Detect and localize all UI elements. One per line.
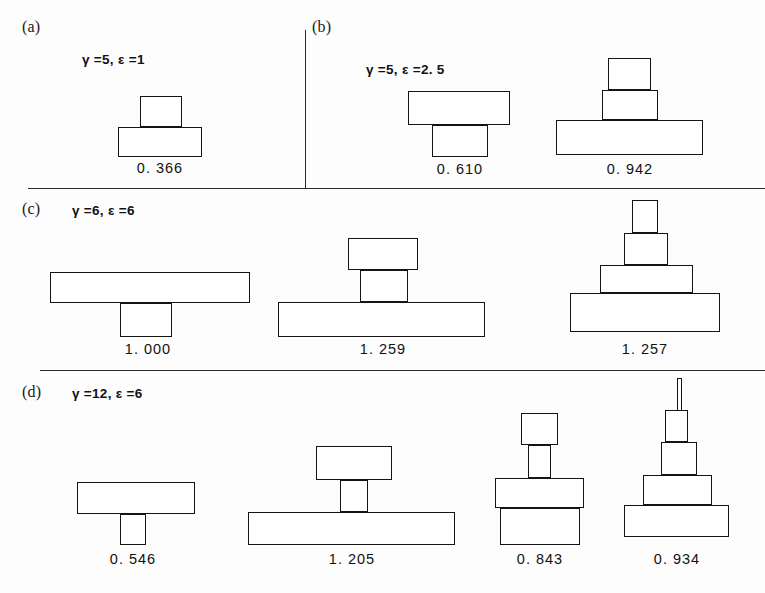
structure-shape-d-4: [0, 0, 765, 593]
structure-block-d-4-2: [661, 442, 697, 475]
objective-value-d-4: 0. 934: [654, 551, 700, 567]
figure-canvas: (a)γ =5, ε =10. 366(b)γ =5, ε =2. 50. 61…: [0, 0, 765, 593]
structure-block-d-4-3: [643, 475, 712, 505]
structure-block-d-4-4: [624, 505, 729, 537]
structure-block-d-4-1: [665, 410, 688, 442]
structure-spike-d-4-1: [677, 378, 682, 410]
